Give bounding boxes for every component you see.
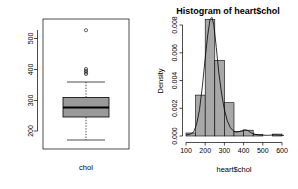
histogram-panel: Histogram of heart$chol 0.000 0.002 0.00… [149, 0, 298, 189]
histogram-svg: Histogram of heart$chol 0.000 0.002 0.00… [149, 0, 298, 189]
y-tick-label-300: 300 [27, 95, 34, 107]
y-tick-label-0004: 0.004 [171, 72, 178, 90]
boxplot-svg: 500 400 300 200 [0, 0, 149, 189]
r-graphics-canvas: 500 400 300 200 [0, 0, 298, 189]
y-tick-label-400: 400 [27, 64, 34, 76]
y-tick-label-0002: 0.002 [171, 99, 178, 117]
histogram-title: Histogram of heart$chol [176, 6, 280, 16]
x-tick-label-100: 100 [180, 147, 192, 154]
histogram-x-axis: 100 200 300 400 500 600 heart$chol [180, 143, 288, 175]
x-tick-label-600: 600 [276, 147, 288, 154]
histogram-y-axis: 0.000 0.002 0.004 0.006 0.008 Density [156, 16, 183, 145]
hist-bar [224, 103, 234, 136]
y-tick-label-0006: 0.006 [171, 44, 178, 62]
histogram-bars [186, 20, 282, 137]
y-tick-label-0000: 0.000 [171, 127, 178, 145]
y-tick-label-0008: 0.008 [171, 16, 178, 34]
boxplot-y-axis: 500 400 300 200 [27, 30, 38, 137]
boxplot-outliers [84, 29, 87, 76]
y-tick-label-200: 200 [27, 125, 34, 137]
hist-bar [215, 60, 225, 136]
x-tick-label-200: 200 [199, 147, 211, 154]
histogram-y-axis-title: Density [156, 68, 165, 93]
x-tick-label-400: 400 [238, 147, 250, 154]
boxplot-panel: 500 400 300 200 [0, 0, 149, 189]
boxplot-x-axis-title: chol [79, 163, 93, 172]
x-tick-label-500: 500 [257, 147, 269, 154]
histogram-x-axis-title: heart$chol [216, 165, 251, 174]
x-tick-label-300: 300 [219, 147, 231, 154]
outlier-point [84, 29, 87, 32]
y-tick-label-500: 500 [27, 33, 34, 45]
boxplot-box [63, 98, 109, 118]
hist-bar [205, 20, 215, 137]
